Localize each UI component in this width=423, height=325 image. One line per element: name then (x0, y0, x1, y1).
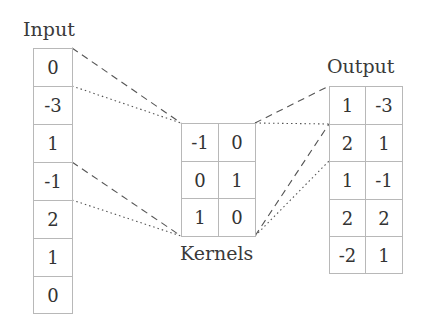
output-cell: -3 (365, 86, 403, 125)
kernels-title: Kernels (180, 242, 253, 264)
input-cell: -3 (33, 86, 73, 125)
output-cell: 1 (329, 161, 366, 200)
output-cell: 2 (365, 199, 403, 237)
kernel-cell: -1 (181, 123, 219, 162)
output-title: Output (327, 55, 394, 77)
connector-dotted (72, 200, 181, 236)
connector-dashed (255, 86, 329, 123)
kernel-cell: 0 (218, 123, 256, 162)
output-cell: 1 (329, 86, 366, 125)
output-cell: 1 (365, 124, 403, 162)
kernel-cell: 1 (181, 198, 219, 237)
connector-dashed (255, 124, 329, 236)
input-cell: 2 (33, 200, 73, 239)
output-cell: 1 (365, 236, 403, 274)
input-cell: -1 (33, 162, 73, 201)
input-cell: 1 (33, 124, 73, 163)
connector-dashed (72, 162, 181, 236)
kernel-cell: 1 (218, 161, 256, 199)
input-cell: 0 (33, 48, 73, 87)
output-cell: -2 (329, 236, 366, 274)
output-cell: -1 (365, 161, 403, 200)
kernel-cell: 0 (181, 161, 219, 199)
input-cell: 0 (33, 276, 73, 314)
output-cell: 2 (329, 199, 366, 237)
connector-dashed (72, 48, 181, 123)
connector-dotted (255, 161, 329, 236)
connector-dotted (72, 86, 181, 123)
kernel-cell: 0 (218, 198, 256, 237)
input-title: Input (23, 18, 75, 40)
output-cell: 2 (329, 124, 366, 162)
connector-dotted (255, 123, 329, 124)
input-cell: 1 (33, 238, 73, 277)
